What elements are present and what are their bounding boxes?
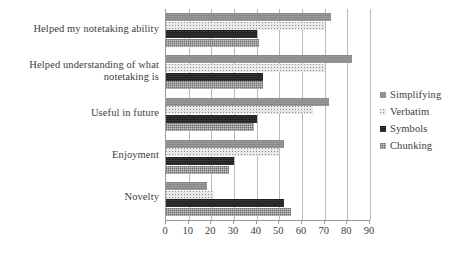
bar <box>166 140 284 148</box>
bar <box>166 73 263 81</box>
category-label: Helped my notetaking ability <box>1 23 159 36</box>
legend-label: Symbols <box>390 123 427 134</box>
bar <box>166 115 257 123</box>
bar-chart: Helped my notetaking abilityHelped under… <box>0 0 461 255</box>
legend-swatch-icon <box>380 143 386 149</box>
axis-tick <box>369 220 370 224</box>
legend-item-symbols[interactable]: Symbols <box>380 120 460 137</box>
value-axis: 0102030405060708090 <box>165 220 369 242</box>
axis-tick <box>233 220 234 224</box>
bar <box>166 98 329 106</box>
bar <box>166 106 313 114</box>
legend-item-chunking[interactable]: Chunking <box>380 137 460 154</box>
legend-label: Verbatim <box>390 106 429 117</box>
bar <box>166 157 234 165</box>
axis-tick <box>188 220 189 224</box>
bar <box>166 39 259 47</box>
legend-swatch-icon <box>380 92 386 98</box>
bar <box>166 182 207 190</box>
axis-tick <box>278 220 279 224</box>
category-label: Novelty <box>1 191 159 204</box>
bar <box>166 148 279 156</box>
bar <box>166 191 214 199</box>
axis-tick <box>346 220 347 224</box>
bar <box>166 208 291 216</box>
legend-item-simplifying[interactable]: Simplifying <box>380 86 460 103</box>
category-label: Useful in future <box>1 107 159 120</box>
legend-item-verbatim[interactable]: Verbatim <box>380 103 460 120</box>
bar-group <box>166 9 369 51</box>
axis-tick <box>324 220 325 224</box>
bar-group <box>166 51 369 93</box>
bar <box>166 30 257 38</box>
plot-area <box>165 9 369 220</box>
bar-group <box>166 136 369 178</box>
legend-label: Simplifying <box>390 89 441 100</box>
bar <box>166 64 325 72</box>
category-axis: Helped my notetaking abilityHelped under… <box>0 8 163 220</box>
chart-legend: SimplifyingVerbatimSymbolsChunking <box>380 86 460 154</box>
bar-group <box>166 93 369 135</box>
axis-tick-label: 90 <box>356 225 382 236</box>
bar <box>166 123 254 131</box>
axis-line <box>165 220 369 221</box>
category-label: Enjoyment <box>1 149 159 162</box>
bar <box>166 166 229 174</box>
gridline <box>370 9 371 220</box>
axis-tick <box>256 220 257 224</box>
legend-label: Chunking <box>390 140 432 151</box>
legend-swatch-icon <box>380 109 386 115</box>
axis-tick <box>165 220 166 224</box>
bar <box>166 55 352 63</box>
bar-group <box>166 178 369 220</box>
axis-tick <box>210 220 211 224</box>
bar <box>166 22 325 30</box>
bars-layer <box>166 9 369 220</box>
bar <box>166 13 331 21</box>
bar <box>166 199 284 207</box>
legend-swatch-icon <box>380 126 386 132</box>
bar <box>166 81 263 89</box>
category-label: Helped understanding of what notetaking … <box>1 59 159 84</box>
axis-tick <box>301 220 302 224</box>
